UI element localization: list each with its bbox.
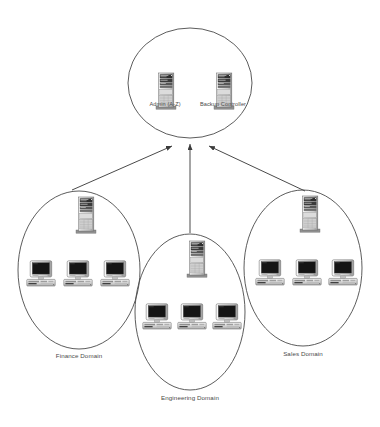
workstation-engineering-3 xyxy=(213,304,241,329)
uplink-arrow-finance xyxy=(72,146,172,190)
domain-label-sales: Sales Domain xyxy=(283,350,323,357)
root-server-label-2: Backup Controller xyxy=(200,101,246,107)
domain-label-finance: Finance Domain xyxy=(56,352,102,359)
domain-server-sales xyxy=(300,196,320,232)
device-icons-layer xyxy=(27,73,357,329)
workstation-engineering-2 xyxy=(178,304,206,329)
workstation-engineering-1 xyxy=(143,304,171,329)
root-domain-circle xyxy=(128,28,252,138)
workstation-sales-2 xyxy=(293,260,321,285)
workstation-sales-3 xyxy=(329,260,357,285)
workstation-finance-2 xyxy=(64,261,92,286)
workstation-finance-3 xyxy=(101,261,129,286)
domain-server-finance xyxy=(76,197,96,233)
workstation-sales-1 xyxy=(256,260,284,285)
root-server-label-1: Admin (A-Z) xyxy=(149,101,180,107)
domain-label-engineering: Engineering Domain xyxy=(161,394,219,401)
workstation-finance-1 xyxy=(27,261,55,286)
domain-uplink-arrows xyxy=(72,144,305,233)
network-diagram-canvas xyxy=(0,0,380,427)
domain-server-engineering xyxy=(187,241,207,277)
uplink-arrow-sales xyxy=(209,146,305,191)
